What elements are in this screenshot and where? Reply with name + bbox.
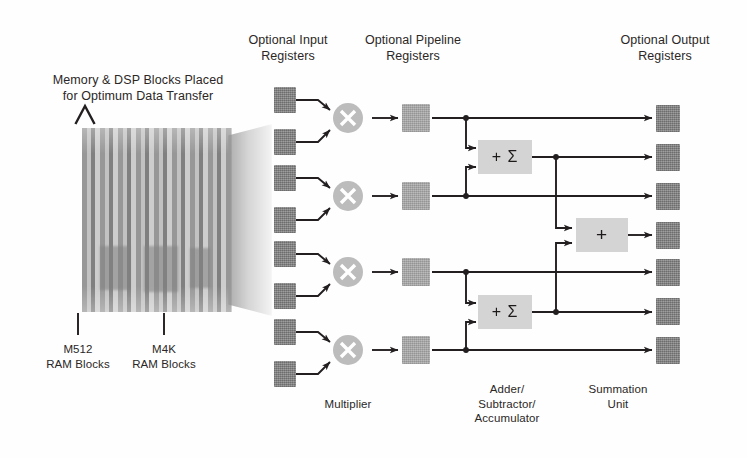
output-register bbox=[656, 144, 680, 171]
label-m4k-ram-blocks: M4K RAM Blocks bbox=[118, 342, 210, 371]
output-register bbox=[656, 105, 680, 132]
output-register bbox=[656, 183, 680, 210]
header-output-registers: Optional Output Registers bbox=[604, 32, 726, 64]
adder-subtractor-accumulator-block: + Σ bbox=[478, 295, 532, 329]
output-register bbox=[656, 298, 680, 325]
memory-dsp-block-array bbox=[82, 128, 268, 312]
multiplier-block bbox=[333, 335, 363, 365]
pipeline-register bbox=[402, 258, 430, 286]
multiply-icon bbox=[333, 103, 363, 133]
memory-patch bbox=[100, 246, 130, 290]
header-input-registers: Optional Input Registers bbox=[232, 32, 344, 64]
dsp-architecture-diagram: Optional Input Registers Optional Pipeli… bbox=[0, 0, 747, 458]
adder-symbol: + Σ bbox=[492, 148, 519, 166]
pipeline-register bbox=[402, 104, 430, 132]
output-register bbox=[656, 337, 680, 364]
pipeline-register bbox=[402, 182, 430, 210]
multiply-icon bbox=[333, 335, 363, 365]
adder-subtractor-accumulator-block: + Σ bbox=[478, 140, 532, 174]
memory-placement-annotation: Memory & DSP Blocks Placed for Optimum D… bbox=[22, 72, 254, 104]
input-register bbox=[274, 165, 296, 191]
multiply-icon bbox=[333, 257, 363, 287]
multiplier-block bbox=[333, 103, 363, 133]
multiplier-block bbox=[333, 257, 363, 287]
pipeline-register bbox=[402, 336, 430, 364]
memory-patch bbox=[144, 246, 178, 292]
label-adder-subtractor-accumulator: Adder/ Subtractor/ Accumulator bbox=[452, 382, 562, 426]
adder-symbol: + Σ bbox=[492, 303, 519, 321]
leader-line-m4k bbox=[163, 313, 165, 335]
leader-line-m512 bbox=[77, 313, 79, 335]
multiply-icon bbox=[333, 181, 363, 211]
output-register bbox=[656, 259, 680, 286]
multiplier-block bbox=[333, 181, 363, 211]
output-register bbox=[656, 222, 680, 249]
input-register bbox=[274, 241, 296, 267]
memory-fanout-gradient bbox=[228, 124, 272, 316]
memory-patch bbox=[190, 248, 210, 288]
label-multiplier: Multiplier bbox=[300, 397, 396, 412]
caret-pointer-icon bbox=[74, 103, 96, 125]
input-register bbox=[274, 361, 296, 387]
label-m512-ram-blocks: M512 RAM Blocks bbox=[32, 342, 124, 371]
summation-symbol: + bbox=[596, 224, 608, 246]
input-register bbox=[274, 129, 296, 155]
input-register bbox=[274, 87, 296, 113]
header-pipeline-registers: Optional Pipeline Registers bbox=[352, 32, 474, 64]
input-register bbox=[274, 319, 296, 345]
input-register bbox=[274, 283, 296, 309]
summation-unit-block: + bbox=[576, 218, 628, 252]
label-summation-unit: Summation Unit bbox=[570, 382, 666, 411]
input-register bbox=[274, 207, 296, 233]
